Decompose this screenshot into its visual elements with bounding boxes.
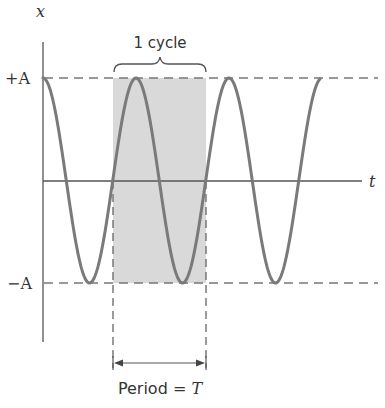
plus-a-label: +A — [5, 69, 30, 88]
cycle-brace — [114, 57, 206, 72]
period-arrow-right-head — [196, 360, 205, 367]
period-label: Period = T — [118, 379, 203, 398]
oscillation-diagram: x t +A −A 1 cycle Period = T — [0, 0, 385, 408]
one-cycle-label: 1 cycle — [133, 34, 186, 52]
minus-a-label: −A — [7, 274, 32, 293]
t-axis-label: t — [369, 172, 376, 191]
period-arrow-left-head — [114, 360, 123, 367]
x-axis-label: x — [36, 2, 45, 21]
